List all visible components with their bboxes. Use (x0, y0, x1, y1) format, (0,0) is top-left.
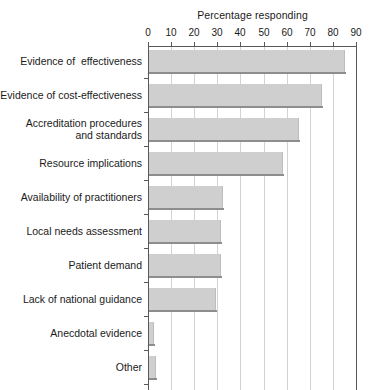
x-axis-tick (194, 42, 195, 46)
y-axis-tick (144, 180, 148, 181)
x-axis-tick (333, 42, 334, 46)
bar[interactable] (149, 118, 299, 140)
bar[interactable] (149, 322, 154, 344)
category-label-line: Patient demand (0, 259, 142, 271)
x-axis-tick (171, 42, 172, 46)
x-axis-tick-label: 50 (258, 27, 269, 38)
category-label-line: and standards (0, 129, 142, 141)
category-label: Other (0, 361, 142, 373)
bar[interactable] (149, 356, 156, 378)
category-label: Lack of national guidance (0, 293, 142, 305)
bar-edge (149, 72, 346, 74)
bar-edge (149, 140, 300, 142)
x-axis-tick-label: 30 (211, 27, 222, 38)
category-label-line: Resource implications (0, 157, 142, 169)
category-label-line: Accreditation procedures (0, 117, 142, 129)
bar-edge (149, 310, 217, 312)
bar[interactable] (149, 220, 221, 242)
bar-edge (149, 344, 155, 346)
x-axis-tick-label: 90 (350, 27, 361, 38)
y-axis-tick (144, 384, 148, 385)
x-axis-tick (356, 42, 357, 46)
x-axis-tick-label: 0 (145, 27, 151, 38)
plot-area: 0102030405060708090 (148, 46, 357, 390)
x-axis-tick-label: 20 (188, 27, 199, 38)
bar[interactable] (149, 152, 283, 174)
x-axis-tick-label: 60 (281, 27, 292, 38)
x-axis-tick (240, 42, 241, 46)
x-axis-tick-label: 40 (234, 27, 245, 38)
x-axis-tick (148, 42, 149, 46)
y-axis-tick (144, 248, 148, 249)
category-label: Accreditation proceduresand standards (0, 117, 142, 141)
category-label-line: Availability of practitioners (0, 191, 142, 203)
bar-edge (149, 242, 222, 244)
axis-line-top (148, 46, 357, 47)
y-axis-tick (144, 214, 148, 215)
category-label-line: Evidence of effectiveness (0, 55, 142, 67)
category-label: Anecdotal evidence (0, 327, 142, 339)
category-label-line: Evidence of cost-effectiveness (0, 89, 142, 101)
bar[interactable] (149, 288, 216, 310)
category-label-line: Lack of national guidance (0, 293, 142, 305)
x-axis-tick (217, 42, 218, 46)
gridline (333, 47, 334, 390)
category-label-line: Local needs assessment (0, 225, 142, 237)
x-axis-tick-label: 10 (165, 27, 176, 38)
bar-edge (149, 208, 224, 210)
category-label: Evidence of effectiveness (0, 55, 142, 67)
category-label: Local needs assessment (0, 225, 142, 237)
y-axis-tick (144, 146, 148, 147)
chart-title: Percentage responding (148, 9, 357, 21)
x-axis-tick-label: 80 (327, 27, 338, 38)
bar[interactable] (149, 84, 322, 106)
bar[interactable] (149, 50, 345, 72)
bar-chart: Percentage responding 010203040506070809… (0, 0, 383, 390)
x-axis-tick (287, 42, 288, 46)
x-axis-tick (310, 42, 311, 46)
x-axis-tick-label: 70 (304, 27, 315, 38)
bar-edge (149, 378, 157, 380)
bar-edge (149, 106, 323, 108)
category-label: Patient demand (0, 259, 142, 271)
y-axis-tick (144, 316, 148, 317)
bar[interactable] (149, 186, 223, 208)
bar-edge (149, 174, 284, 176)
axis-line-right (356, 46, 357, 390)
y-axis-tick (144, 282, 148, 283)
y-axis-tick (144, 350, 148, 351)
bar-edge (149, 276, 222, 278)
category-label-line: Other (0, 361, 142, 373)
y-axis-tick (144, 78, 148, 79)
category-label: Resource implications (0, 157, 142, 169)
y-axis-tick (144, 112, 148, 113)
category-label: Evidence of cost-effectiveness (0, 89, 142, 101)
category-label-line: Anecdotal evidence (0, 327, 142, 339)
bar[interactable] (149, 254, 221, 276)
category-label: Availability of practitioners (0, 191, 142, 203)
x-axis-tick (264, 42, 265, 46)
